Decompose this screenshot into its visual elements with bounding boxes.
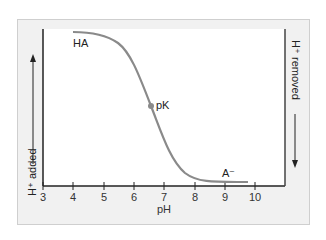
- arrow-up-icon: [30, 54, 36, 62]
- x-tick-label: 10: [249, 191, 261, 203]
- label-pk: pK: [156, 99, 169, 111]
- label-ha: HA: [73, 37, 88, 49]
- x-axis-label: pH: [157, 203, 171, 215]
- x-tick-label: 9: [222, 191, 228, 203]
- y-label-left: H⁺ added: [26, 148, 39, 196]
- pk-point-marker: [148, 103, 154, 109]
- x-tick-label: 6: [131, 191, 137, 203]
- label-a-minus: A⁻: [222, 167, 235, 180]
- arrow-down-icon: [292, 160, 298, 168]
- x-tick-label: 7: [161, 191, 167, 203]
- x-tick-label: 8: [192, 191, 198, 203]
- x-tick-label: 3: [40, 191, 46, 203]
- x-tick-label: 5: [101, 191, 107, 203]
- y-label-right: H⁺ removed: [289, 40, 302, 100]
- x-tick-label: 4: [70, 191, 76, 203]
